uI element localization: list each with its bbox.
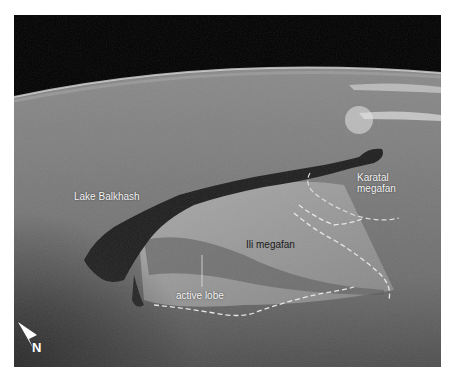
lake-balkhash-label: Lake Balkhash (74, 191, 140, 202)
karatal-megafan-label: Karatal megafan (357, 172, 396, 194)
karatal-label-line2: megafan (357, 183, 396, 194)
north-label: N (32, 340, 41, 355)
ili-megafan-label: Ili megafan (246, 239, 295, 250)
active-lobe-label: active lobe (176, 290, 224, 301)
karatal-label-line1: Karatal (357, 172, 396, 183)
